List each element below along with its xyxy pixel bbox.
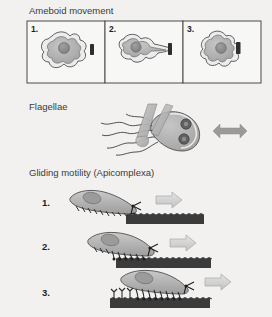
panel-1-number: 1. <box>31 24 38 34</box>
substrate-bar <box>116 259 211 268</box>
substrate-2 <box>116 258 212 269</box>
nucleolus <box>182 137 186 141</box>
ameboid-panel-3: 3. <box>183 21 261 83</box>
flagellae-section-title: Flagellae <box>29 101 68 112</box>
panel-2-number: 2. <box>109 24 116 34</box>
gliding-step-1-number: 1. <box>42 197 50 208</box>
nucleus-icon <box>58 42 69 53</box>
nucleus-icon <box>131 42 141 52</box>
panel-1-substrate-bar <box>90 44 94 55</box>
beat-ribbon-curl <box>136 136 149 147</box>
nucleolus <box>184 122 188 126</box>
ameboid-panel-1: 1. <box>27 21 105 83</box>
panel-3-number: 3. <box>187 24 194 34</box>
gliding-step-3-number: 3. <box>42 287 50 298</box>
ameboid-panel-2: 2. <box>105 21 183 83</box>
panel-3-substrate-bar <box>236 42 241 54</box>
ameboid-section-title: Ameboid movement <box>29 5 114 16</box>
substrate-bar <box>110 299 210 308</box>
nucleus-icon <box>216 43 227 54</box>
gliding-section-title: Gliding motility (Apicomplexa) <box>29 167 154 178</box>
panel-2-substrate-bar <box>168 43 172 55</box>
gliding-step-2-number: 2. <box>42 241 50 252</box>
substrate-1 <box>126 214 204 225</box>
motility-diagram: Ameboid movement 1. 2. 3. Flagellae <box>0 0 272 317</box>
substrate-bar <box>126 215 204 224</box>
